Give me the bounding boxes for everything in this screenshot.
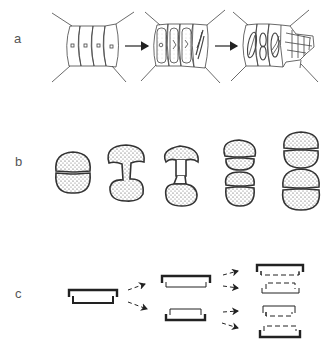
dashed-arrow-icon (128, 284, 145, 290)
dashed-arrow-icon (128, 302, 147, 309)
panel-c-arrows-2 (222, 271, 238, 328)
diagram-canvas (0, 0, 327, 351)
panel-c-granddaughter-1 (257, 265, 303, 275)
dashed-arrow-icon (223, 271, 238, 275)
panel-c-daughter-1 (162, 276, 210, 287)
panel-a-stage-2 (141, 10, 225, 83)
panel-b-stage-3 (165, 146, 199, 206)
panel-b-stage-1 (56, 152, 90, 193)
dashed-arrow-icon (223, 286, 238, 288)
panel-c-granddaughter-4 (260, 326, 300, 337)
panel-c-parent-frustule (69, 290, 117, 303)
panel-b-stage-4 (224, 140, 255, 206)
panel-a-stage-3 (231, 10, 318, 82)
panel-c-granddaughter-3 (263, 306, 295, 316)
panel-c-granddaughter-2 (262, 283, 299, 293)
dashed-arrow-icon (223, 311, 238, 312)
panel-b-stage-2 (108, 145, 144, 201)
panel-b-stage-5 (283, 132, 320, 210)
panel-a-stage-1 (52, 12, 134, 82)
dashed-arrow-icon (222, 323, 238, 328)
panel-c-arrows-1 (128, 284, 147, 309)
panel-c-daughter-2 (166, 309, 205, 320)
